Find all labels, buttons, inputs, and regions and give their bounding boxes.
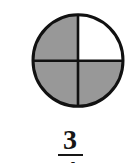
circle-fraction-model <box>31 12 125 110</box>
fraction-figure: 3 4 <box>0 0 140 163</box>
fraction-numerator: 3 <box>58 126 83 153</box>
fraction-stack: 3 4 <box>58 126 83 163</box>
circle-model-svg <box>31 12 125 110</box>
fraction-label: 3 4 <box>0 126 140 163</box>
fraction-denominator: 4 <box>58 157 83 163</box>
